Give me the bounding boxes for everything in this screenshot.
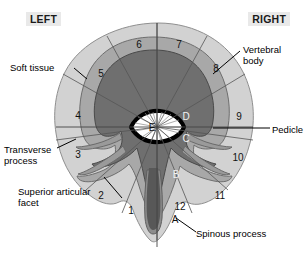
- callout-transverse-process: Transverse process: [4, 144, 51, 166]
- callout-spinous-process: Spinous process: [196, 228, 266, 239]
- depth-zone-label-c: C: [182, 133, 189, 144]
- sector-label-7: 7: [176, 39, 182, 50]
- sector-label-4: 4: [75, 110, 81, 121]
- sector-label-2: 2: [98, 190, 104, 201]
- depth-zone-label-e: E: [149, 122, 156, 133]
- orientation-label-left: LEFT: [26, 12, 61, 26]
- depth-zone-label-d: D: [182, 111, 189, 122]
- leader-spinous-process: [176, 218, 196, 232]
- callout-superior-articular-facet: Superior articular facet: [18, 186, 90, 208]
- callout-soft-tissue: Soft tissue: [10, 62, 54, 73]
- sector-label-11: 11: [215, 190, 226, 201]
- callout-pedicle: Pedicle: [272, 124, 303, 135]
- sector-label-10: 10: [232, 152, 244, 163]
- depth-zone-label-b: B: [173, 169, 180, 180]
- vertebra-diagram: 1 2 3 4 5 6 7 8 9 10 11 12 A B C D E: [0, 0, 308, 261]
- sector-label-1: 1: [128, 205, 134, 216]
- callout-vertebral-body: Vertebral body: [243, 44, 281, 66]
- sector-label-5: 5: [98, 68, 104, 79]
- sector-label-9: 9: [236, 111, 242, 122]
- figure-canvas: 1 2 3 4 5 6 7 8 9 10 11 12 A B C D E: [0, 0, 308, 261]
- sector-label-8: 8: [213, 63, 219, 74]
- sector-label-6: 6: [136, 39, 142, 50]
- sector-label-3: 3: [75, 149, 81, 160]
- orientation-label-right: RIGHT: [248, 12, 290, 26]
- sector-label-12: 12: [174, 201, 186, 212]
- spinous-process-core: [147, 168, 161, 230]
